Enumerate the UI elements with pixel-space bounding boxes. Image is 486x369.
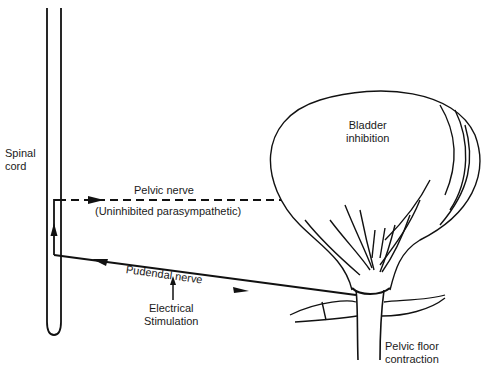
stim-label-line1: Electrical (144, 302, 198, 315)
pelvic-floor-line2: contraction (385, 353, 439, 366)
pelvic-nerve-label: Pelvic nerve (134, 184, 194, 197)
pelvic-floor-label: Pelvic floor contraction (385, 340, 439, 366)
pudendal-right-arrow-icon (233, 287, 249, 293)
stim-label-line2: Stimulation (144, 315, 198, 328)
bladder-label-line2: inhibition (346, 132, 389, 145)
pelvic-floor-line1: Pelvic floor (385, 340, 439, 353)
spinal-cord-label: Spinal cord (5, 147, 36, 173)
pelvic-arrow-icon (88, 196, 104, 204)
pudendal-nerve-line (54, 255, 356, 295)
diagram-canvas (0, 0, 486, 369)
uninhibited-label: (Uninhibited parasympathetic) (95, 205, 241, 218)
spinal-label-line1: Spinal (5, 147, 36, 160)
electrical-stimulation-label: Electrical Stimulation (144, 302, 198, 328)
cord-reflex-path (51, 200, 59, 255)
bladder-inhibition-label: Bladder inhibition (346, 119, 389, 145)
up-arrow-icon (51, 223, 58, 236)
spinal-label-line2: cord (5, 160, 36, 173)
bladder-label-line1: Bladder (346, 119, 389, 132)
spinal-cord-shape (47, 8, 61, 335)
pudendal-left-arrow-icon (92, 259, 108, 266)
